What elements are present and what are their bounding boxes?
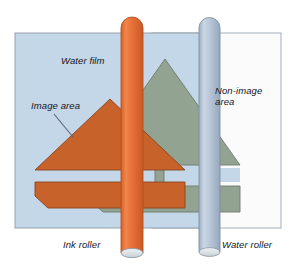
ink-roller-label: Ink roller [63,239,100,250]
diagram-canvas [0,0,296,269]
water-film-label: Water film [61,55,105,66]
water-roller-cap [199,248,220,257]
image-banner [35,182,185,208]
image-area-label: Image area [31,100,80,111]
non-image-area-label: Non-image area [215,85,281,107]
water-roller-label: Water roller [222,239,272,250]
water-roller-body [199,18,220,253]
ink-roller-cap [121,248,143,257]
ink-roller-cylinder[interactable] [121,17,143,258]
ink-roller-body [121,17,143,253]
lithography-diagram: Water film Image area Non-image area Ink… [0,0,296,269]
water-roller-cylinder[interactable] [199,18,220,257]
